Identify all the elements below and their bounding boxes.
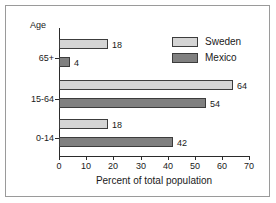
bar-value-sweden-0-14: 18 [112, 121, 122, 130]
x-axis-tick-60 [222, 156, 223, 160]
bar-value-sweden-15-64: 64 [237, 82, 247, 91]
x-axis-tick-70 [249, 156, 250, 160]
bar-value-mexico-0-14: 42 [177, 139, 187, 148]
x-axis-ticklabel-60: 60 [210, 162, 234, 171]
bar-sweden-65plus[interactable] [59, 39, 108, 49]
bar-sweden-15-64[interactable] [59, 80, 233, 90]
x-axis-tick-20 [113, 156, 114, 160]
bar-mexico-0-14[interactable] [59, 137, 173, 147]
bar-value-mexico-65plus: 4 [74, 59, 79, 68]
x-axis-tick-40 [168, 156, 169, 160]
x-axis-ticklabel-30: 30 [129, 162, 153, 171]
legend-swatch-mexico [172, 53, 198, 63]
x-axis-line [59, 156, 249, 157]
legend-item-sweden[interactable]: Sweden [172, 35, 241, 48]
bar-mexico-65plus[interactable] [59, 57, 70, 67]
x-axis-tick-10 [86, 156, 87, 160]
x-axis-tick-50 [195, 156, 196, 160]
x-axis-tick-0 [59, 156, 60, 160]
x-axis-title: Percent of total population [59, 176, 249, 186]
bar-sweden-0-14[interactable] [59, 119, 108, 129]
legend-label-sweden: Sweden [205, 37, 241, 47]
y-axis-label-15-64: 15-64 [31, 95, 54, 104]
y-axis-labels: 65+ 15-64 0-14 [6, 6, 54, 203]
x-axis-ticklabel-10: 10 [74, 162, 98, 171]
x-axis-ticklabel-40: 40 [156, 162, 180, 171]
legend-item-mexico[interactable]: Mexico [172, 51, 241, 64]
chart-legend: Sweden Mexico [172, 35, 241, 67]
y-axis-label-65plus: 65+ [39, 54, 54, 63]
legend-label-mexico: Mexico [205, 53, 237, 63]
x-axis-ticklabel-70: 70 [237, 162, 261, 171]
chart-frame: Age 65+ 15-64 0-14 18 4 64 54 18 42 0 10… [5, 5, 270, 197]
y-axis-label-0-14: 0-14 [36, 134, 54, 143]
x-axis-ticklabel-20: 20 [101, 162, 125, 171]
bar-value-sweden-65plus: 18 [112, 41, 122, 50]
bar-value-mexico-15-64: 54 [210, 100, 220, 109]
legend-swatch-sweden [172, 37, 198, 47]
bar-mexico-15-64[interactable] [59, 98, 206, 108]
x-axis-tick-30 [141, 156, 142, 160]
x-axis-ticklabel-0: 0 [47, 162, 71, 171]
x-axis-ticklabel-50: 50 [183, 162, 207, 171]
